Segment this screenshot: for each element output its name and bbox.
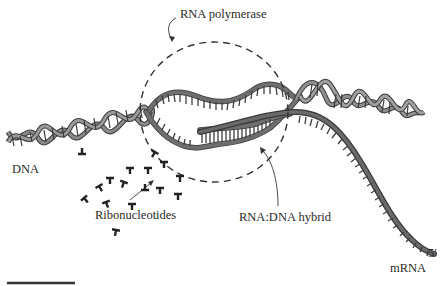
rna-polymerase-label: RNA polymerase (180, 8, 266, 21)
transcription-diagram (0, 0, 441, 286)
five-prime-label: 5′ (428, 247, 437, 260)
dna-double-helix-left (8, 106, 153, 146)
dna-double-helix-right (296, 81, 424, 116)
mrna-strand (200, 112, 434, 256)
ribonucleotides-label: Ribonucleotides (95, 209, 176, 222)
rna-dna-hybrid-label: RNA:DNA hybrid (239, 211, 331, 224)
arrowhead-icon (169, 36, 175, 42)
ribonucleotides (78, 148, 184, 237)
dna-label: DNA (12, 163, 39, 176)
mrna-label: mRNA (390, 262, 426, 275)
non-template-strand (148, 84, 300, 112)
